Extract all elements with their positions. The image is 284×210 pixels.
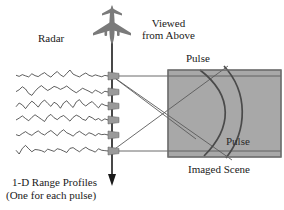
- pulse-position-marker: [108, 147, 119, 155]
- range-profile-trace: [16, 130, 108, 136]
- pulse-position-marker: [108, 72, 119, 80]
- label-viewed-line2: from Above: [142, 29, 195, 41]
- label-pulse-inside-scene: Pulse: [226, 135, 250, 147]
- pulse-position-marker: [108, 88, 119, 96]
- range-profile-trace: [16, 100, 108, 109]
- pulse-position-marker: [108, 102, 119, 110]
- flight-path-group: [108, 40, 116, 186]
- label-range-profiles: 1-D Range Profiles: [12, 176, 97, 188]
- aircraft-icon: [93, 5, 131, 44]
- range-profile-trace: [16, 145, 108, 154]
- label-radar: Radar: [38, 32, 64, 44]
- range-profile-trace: [16, 70, 108, 77]
- label-viewed-line1: Viewed: [142, 17, 195, 29]
- flight-path-arrowhead: [108, 174, 116, 186]
- label-pulse-top: Pulse: [186, 52, 210, 64]
- label-imaged-scene: Imaged Scene: [188, 163, 250, 175]
- range-profile-trace: [16, 114, 108, 121]
- label-range-profiles-sub: (One for each pulse): [6, 189, 96, 201]
- pulse-position-marker: [108, 116, 119, 124]
- aircraft-engine-left: [105, 28, 108, 36]
- label-viewed-from-above: Viewed from Above: [142, 17, 195, 42]
- radar-imaging-diagram: Radar Viewed from Above Pulse Pulse Imag…: [0, 0, 284, 210]
- pulse-marker-group: [108, 72, 119, 155]
- pulse-position-marker: [108, 131, 119, 139]
- range-profile-trace: [16, 86, 108, 96]
- aircraft-engine-right: [117, 28, 120, 36]
- range-profile-waveforms: [16, 70, 108, 154]
